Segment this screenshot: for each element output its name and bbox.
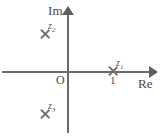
point-label-z2-subscript: 2 [52,26,56,34]
point-label-z1: z1 [116,57,123,71]
point-label-z3: z3 [48,100,55,114]
imaginary-axis-arrow-icon [62,6,74,15]
point-marker-z2: z2 [38,27,52,41]
point-label-z3-subscript: 3 [52,106,56,114]
complex-plane-figure: Im Re O z1 1 z2 z3 [0,0,164,137]
real-axis-label: Re [138,76,153,92]
point-label-z1-subscript: 1 [120,63,124,71]
imaginary-axis-label: Im [48,3,63,19]
real-axis-line [2,71,153,73]
x-tick-label-1: 1 [110,74,116,86]
origin-label: O [56,73,65,88]
point-label-z2: z2 [48,20,55,34]
imaginary-axis-line [67,13,69,133]
point-marker-z3: z3 [38,107,52,121]
